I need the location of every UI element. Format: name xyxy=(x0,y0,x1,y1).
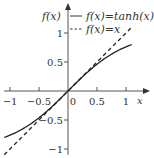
y-tick-label: 1 xyxy=(57,28,63,39)
x-tick-label: 1 xyxy=(123,96,129,107)
x-tick-label: 0.5 xyxy=(89,96,105,107)
axes: −1−0.500.51−1−0.50.51 xyxy=(3,3,150,155)
x-tick-label: 0 xyxy=(70,96,76,107)
x-axis-label: x xyxy=(137,95,143,106)
legend-tanh-label: f(x)=tanh(x) xyxy=(85,10,154,23)
y-axis-arrow-icon xyxy=(65,3,71,10)
legend-identity-label: f(x)=x xyxy=(85,23,121,36)
x-tick-label: −1 xyxy=(3,96,18,107)
y-axis-label: f(x) xyxy=(41,10,61,23)
tanh-chart: −1−0.500.51−1−0.50.51 f(x)=tanh(x) f(x)=… xyxy=(0,0,154,158)
y-tick-label: −0.5 xyxy=(39,115,63,126)
y-tick-label: 0.5 xyxy=(47,57,63,68)
y-tick-label: −1 xyxy=(48,144,63,155)
x-axis-arrow-icon xyxy=(143,88,150,94)
legend: f(x)=tanh(x) f(x)=x xyxy=(70,10,154,36)
x-tick-label: −0.5 xyxy=(27,96,51,107)
